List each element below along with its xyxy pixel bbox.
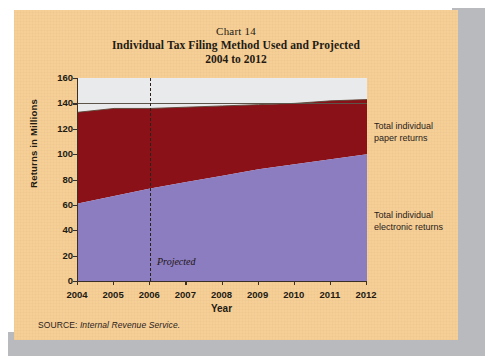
page-subtitle: 2004 to 2012 — [14, 52, 458, 66]
legend-electronic-returns: Total individual electronic returns — [374, 210, 443, 233]
chart-page: Chart 14 Individual Tax Filing Method Us… — [14, 10, 458, 340]
y-tick-100: 100 — [47, 149, 73, 159]
x-tick-2012: 2012 — [346, 289, 386, 300]
source-prefix: SOURCE: — [38, 320, 77, 330]
x-tick-2006: 2006 — [129, 289, 169, 300]
chart-title-block: Chart 14 Individual Tax Filing Method Us… — [14, 24, 458, 66]
legend-paper-returns: Total individual paper returns — [374, 121, 433, 144]
x-tick-mark-2012 — [366, 281, 367, 285]
projection-divider-line — [150, 78, 151, 281]
x-tick-mark-2005 — [113, 281, 114, 285]
x-tick-2009: 2009 — [238, 289, 278, 300]
legend-electronic-line2: electronic returns — [374, 222, 443, 234]
legend-paper-line2: paper returns — [374, 133, 433, 145]
y-tick-40: 40 — [47, 225, 73, 235]
x-axis-label: Year — [77, 303, 366, 314]
x-tick-mark-2006 — [149, 281, 150, 285]
scanned-page-canvas: Chart 14 Individual Tax Filing Method Us… — [0, 0, 493, 364]
x-tick-2004: 2004 — [57, 289, 97, 300]
x-tick-2005: 2005 — [93, 289, 133, 300]
page-title: Individual Tax Filing Method Used and Pr… — [14, 38, 458, 52]
source-note: SOURCE: Internal Revenue Service. — [38, 320, 180, 330]
y-tick-80: 80 — [47, 175, 73, 185]
legend-paper-line1: Total individual — [374, 121, 433, 133]
y-tick-0: 0 — [47, 276, 73, 286]
source-name: Internal Revenue Service. — [80, 320, 180, 330]
x-tick-mark-2011 — [330, 281, 331, 285]
gridline-140 — [78, 103, 367, 104]
x-tick-mark-2009 — [258, 281, 259, 285]
x-tick-mark-2007 — [185, 281, 186, 285]
y-axis-label: Returns in Millions — [28, 89, 39, 199]
x-tick-mark-2008 — [222, 281, 223, 285]
x-tick-2010: 2010 — [274, 289, 314, 300]
chart-number: Chart 14 — [14, 24, 458, 38]
y-axis-tick-labels: 020406080100120140160 — [44, 78, 73, 281]
x-tick-mark-2004 — [77, 281, 78, 285]
y-tick-140: 140 — [47, 98, 73, 108]
x-tick-2008: 2008 — [202, 289, 242, 300]
stacked-area-chart — [78, 78, 367, 281]
x-tick-2007: 2007 — [165, 289, 205, 300]
plot-area: Projected — [77, 78, 367, 282]
legend-electronic-line1: Total individual — [374, 210, 443, 222]
y-tick-120: 120 — [47, 124, 73, 134]
y-tick-20: 20 — [47, 251, 73, 261]
y-tick-160: 160 — [47, 73, 73, 83]
x-tick-2011: 2011 — [310, 289, 350, 300]
x-tick-mark-2010 — [294, 281, 295, 285]
y-tick-60: 60 — [47, 200, 73, 210]
projected-annotation: Projected — [157, 256, 196, 267]
